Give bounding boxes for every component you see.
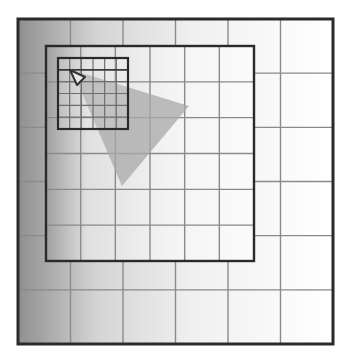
inner-grid: [58, 58, 128, 129]
nested-grid-diagram: [0, 0, 353, 364]
